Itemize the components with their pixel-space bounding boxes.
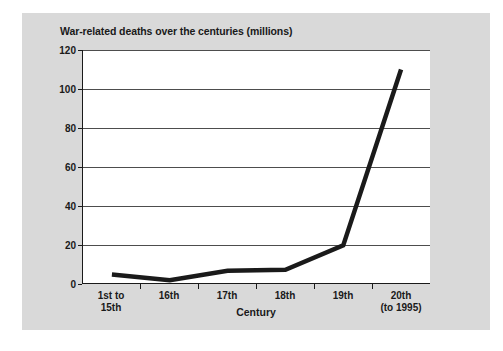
x-axis-tick-label-line: 16th bbox=[159, 290, 180, 302]
y-axis-tick-mark bbox=[78, 50, 82, 51]
x-axis-tick-label: 1st to15th bbox=[98, 290, 125, 313]
y-axis-tick-mark bbox=[78, 89, 82, 90]
series-line bbox=[112, 69, 401, 280]
y-axis-tick-mark bbox=[78, 167, 82, 168]
x-axis-tick-label-line: 18th bbox=[275, 290, 296, 302]
gridline bbox=[83, 167, 430, 168]
x-axis-tick-label: 18th bbox=[275, 290, 296, 302]
x-axis-tick-mark bbox=[140, 284, 141, 289]
y-axis-tick-label: 120 bbox=[59, 45, 76, 56]
x-axis-tick-label: 16th bbox=[159, 290, 180, 302]
y-axis-tick-label: 80 bbox=[65, 123, 76, 134]
x-axis-tick-mark bbox=[256, 284, 257, 289]
x-axis-tick-label: 20th(to 1995) bbox=[380, 290, 421, 313]
x-axis-tick-label-line: (to 1995) bbox=[380, 302, 421, 314]
x-axis-tick-label: 19th bbox=[333, 290, 354, 302]
y-axis-tick-label: 100 bbox=[59, 84, 76, 95]
plot-region: 020406080100120 1st to15th16th17th18th19… bbox=[82, 50, 430, 284]
gridline bbox=[83, 128, 430, 129]
y-axis-tick-label: 60 bbox=[65, 162, 76, 173]
chart-title: War-related deaths over the centuries (m… bbox=[60, 25, 292, 37]
y-axis-tick-mark bbox=[78, 128, 82, 129]
x-axis-tick-label-line: 1st to bbox=[98, 290, 125, 302]
gridline bbox=[83, 89, 430, 90]
x-axis-tick-mark bbox=[372, 284, 373, 289]
gridline bbox=[83, 206, 430, 207]
y-axis-tick-mark bbox=[78, 284, 82, 285]
figure-panel: War-related deaths over the centuries (m… bbox=[22, 13, 490, 330]
y-axis-tick-label: 0 bbox=[70, 279, 76, 290]
x-axis-tick-label-line: 15th bbox=[98, 302, 125, 314]
plot-area bbox=[82, 50, 430, 284]
gridline bbox=[83, 245, 430, 246]
x-axis-tick-mark bbox=[314, 284, 315, 289]
y-axis-tick-mark bbox=[78, 245, 82, 246]
y-axis-tick-label: 40 bbox=[65, 201, 76, 212]
x-axis-title: Century bbox=[236, 306, 276, 318]
x-axis-tick-label: 17th bbox=[217, 290, 238, 302]
x-axis-tick-label-line: 19th bbox=[333, 290, 354, 302]
y-axis-tick-mark bbox=[78, 206, 82, 207]
x-axis-tick-label-line: 17th bbox=[217, 290, 238, 302]
x-axis-tick-label-line: 20th bbox=[380, 290, 421, 302]
x-axis-tick-mark bbox=[198, 284, 199, 289]
gridline bbox=[83, 50, 430, 51]
y-axis-tick-label: 20 bbox=[65, 240, 76, 251]
